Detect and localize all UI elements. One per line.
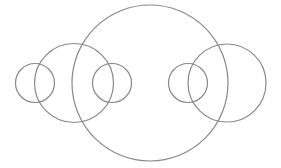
center-large-circle: [72, 5, 228, 161]
right-medium-circle: [188, 44, 266, 122]
left-medium-circle: [35, 44, 114, 123]
left-small-inner-circle: [93, 64, 132, 103]
circles-diagram: [0, 0, 281, 168]
